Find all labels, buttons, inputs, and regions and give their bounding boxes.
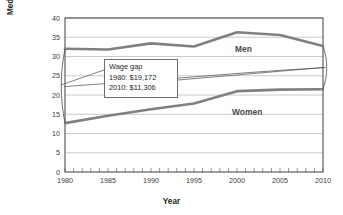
- series-label-women: Women: [232, 107, 263, 117]
- callout-row-2010: 2010: $11,306: [109, 83, 173, 94]
- bracket-1980: [61, 49, 65, 123]
- wage-gap-callout: Wage gap 1980: $19,172 2010: $11,306: [104, 59, 178, 98]
- wage-gap-line-chart: Median income in thousands of 2010 dolla…: [0, 0, 343, 215]
- callout-title: Wage gap: [109, 62, 173, 73]
- series-label-men: Men: [235, 44, 252, 54]
- callout-row-1980: 1980: $19,172: [109, 73, 173, 84]
- plot-area: [0, 0, 343, 215]
